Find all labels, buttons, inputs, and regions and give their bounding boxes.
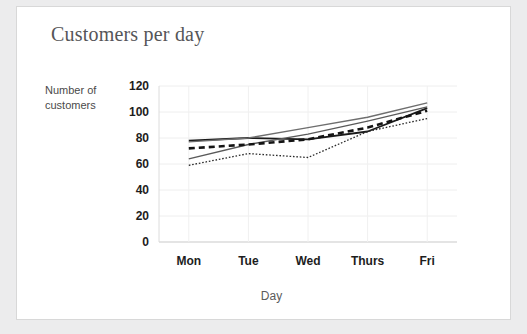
- y-tick-label: 100: [117, 105, 149, 119]
- x-tick-label: Tue: [218, 254, 278, 268]
- y-tick-label: 60: [117, 157, 149, 171]
- x-tick-label: Fri: [397, 254, 457, 268]
- line-chart-svg: [17, 7, 512, 321]
- y-tick-label: 120: [117, 79, 149, 93]
- gridlines: [159, 86, 457, 242]
- x-axis-title-text: Day: [261, 289, 282, 303]
- y-tick-label: 40: [117, 183, 149, 197]
- y-tick-label: 80: [117, 131, 149, 145]
- x-tick-label: Mon: [159, 254, 219, 268]
- y-tick-label: 0: [117, 235, 149, 249]
- chart-plot-area: [17, 7, 512, 321]
- x-axis-title: Day: [17, 289, 512, 303]
- chart-card: Customers per day Number of customers 02…: [16, 6, 511, 320]
- y-tick-label: 20: [117, 209, 149, 223]
- x-tick-label: Thurs: [338, 254, 398, 268]
- x-tick-label: Wed: [278, 254, 338, 268]
